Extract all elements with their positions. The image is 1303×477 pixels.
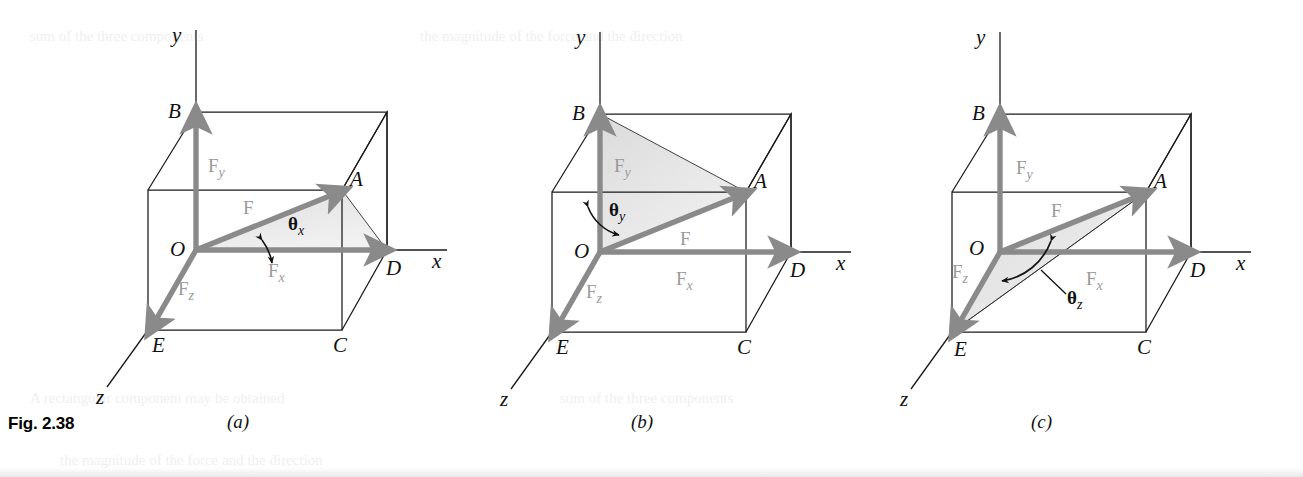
panel-caption-c: (c) [1031,411,1052,433]
vertex-label-e-b: E [555,335,569,359]
figure-2-38: sum of the three components the magnitud… [0,0,1303,477]
shaded-triangle-oba [600,114,746,252]
vertex-label-o-b: O [574,239,589,263]
vector-label-fx-b: Fx [676,268,694,293]
vertex-label-a-b: A [752,169,767,193]
vertex-label-e-a: E [151,333,165,357]
axis-label-y-b: y [574,25,586,49]
vertex-label-b-c: B [972,101,985,125]
vector-label-fz-c: Fz [952,261,969,286]
vertex-label-b-b: B [572,101,585,125]
vertex-label-d-a: D [385,256,401,280]
axis-label-y-a: y [170,23,182,47]
vector-label-fx-a: Fx [268,260,286,285]
vertex-label-c-a: C [333,333,348,357]
vector-label-f-b: F [680,228,691,249]
vertex-label-e-c: E [953,337,967,361]
vector-label-f-c: F [1051,200,1062,221]
angle-leader-line-c [1041,270,1066,294]
vertex-label-o-c: O [969,236,984,260]
panel-caption-b: (b) [631,411,653,433]
vertex-label-d-c: D [1189,258,1205,282]
panel-a: B A O D E C y x z Fy F Fx Fz θx (a) [95,23,447,433]
axis-label-x-b: x [835,251,846,275]
axis-z-line-a [107,330,148,387]
vertex-label-a-a: A [348,167,363,191]
vector-label-fy-a: Fy [208,155,226,180]
vertex-label-o-a: O [170,237,185,261]
axis-label-x-a: x [431,249,442,273]
vertex-label-c-c: C [1137,335,1152,359]
axis-z-line-c [911,332,952,389]
vertex-label-d-b: D [789,258,805,282]
diagonal-line-ea [952,192,1146,332]
vector-label-fx-c: Fx [1086,268,1104,293]
vector-label-fy-c: Fy [1016,157,1034,182]
page-bottom-band [0,468,1303,477]
vertex-label-b-a: B [168,99,181,123]
axis-label-x-c: x [1235,251,1246,275]
vector-label-f-a: F [243,197,254,218]
vertex-label-a-c: A [1152,169,1167,193]
vector-label-fz-a: Fz [178,278,195,303]
panel-b: B A O D E C y x z Fy F Fx Fz θy (b) [499,25,851,433]
vertex-label-c-b: C [737,335,752,359]
figure-number-label: Fig. 2.38 [8,414,74,434]
angle-label-theta-z: θz [1067,287,1083,312]
vector-label-fz-b: Fz [586,281,603,306]
axis-z-line-b [511,332,552,389]
axis-label-z-c: z [899,387,908,411]
panel-c: B A O D E C y x z Fy F Fx Fz θz (c) [899,25,1251,433]
figure-canvas: B A O D E C y x z Fy F Fx Fz θx (a) [0,0,1303,477]
panel-caption-a: (a) [227,411,249,433]
axis-label-y-c: y [974,25,986,49]
axis-label-z-b: z [499,387,508,411]
axis-label-z-a: z [95,385,104,409]
